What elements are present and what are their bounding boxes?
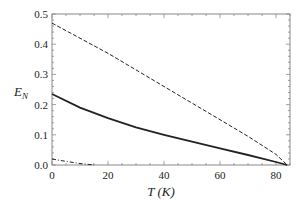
series-dot-dashed [52, 159, 94, 165]
x-tick-label: 80 [271, 169, 283, 181]
x-axis-label: T (K) [147, 184, 175, 199]
plot-frame [52, 14, 290, 165]
series-solid [52, 94, 287, 165]
y-axis-label: EN [13, 84, 29, 101]
series-dashed [52, 23, 287, 165]
chart: 0204060800.00.10.20.30.40.5T (K)EN [0, 0, 307, 203]
x-tick-label: 40 [159, 169, 171, 181]
y-tick-label: 0.3 [34, 68, 48, 80]
y-tick-label: 0.2 [34, 99, 48, 111]
x-tick-label: 20 [103, 169, 115, 181]
x-tick-label: 60 [215, 169, 227, 181]
y-tick-label: 0.1 [34, 129, 48, 141]
x-tick-label: 0 [49, 169, 55, 181]
y-tick-label: 0.5 [34, 8, 48, 20]
y-tick-label: 0.4 [34, 38, 48, 50]
y-tick-label: 0.0 [34, 159, 48, 171]
